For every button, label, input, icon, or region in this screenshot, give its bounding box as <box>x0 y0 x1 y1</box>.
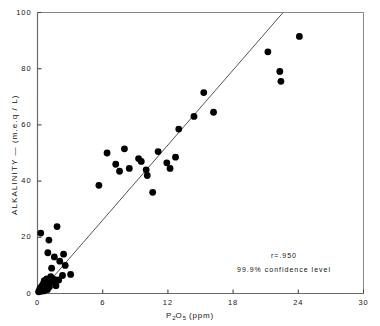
data-point <box>95 182 102 189</box>
data-point <box>191 113 198 120</box>
data-point <box>155 148 162 155</box>
data-point <box>143 166 150 173</box>
y-axis-title: ALKALINITY — (m.e.q / L) <box>10 94 19 215</box>
data-point <box>296 33 303 40</box>
data-point <box>104 150 111 157</box>
data-point <box>276 68 283 75</box>
x-tick-label: 30 <box>350 298 378 307</box>
x-tick-label: 0 <box>24 298 52 307</box>
data-point <box>62 262 69 269</box>
x-axis-title: P2O5 (ppm) <box>0 311 380 321</box>
data-point <box>54 223 61 230</box>
x-tick-label: 24 <box>284 298 312 307</box>
data-point <box>172 154 179 161</box>
data-point <box>48 265 55 272</box>
data-point <box>44 249 51 256</box>
y-tick-label: 60 <box>2 120 32 129</box>
data-point <box>67 271 74 278</box>
data-point <box>210 109 217 116</box>
confidence-annotation: 99.9% confidence level <box>204 266 364 273</box>
x-axis-title-mid: O <box>176 311 183 320</box>
data-point <box>37 230 44 237</box>
y-tick-label: 0 <box>2 289 32 298</box>
y-tick-label: 20 <box>2 232 32 241</box>
data-point <box>112 161 119 168</box>
data-point <box>46 237 53 244</box>
plot-canvas <box>0 0 380 326</box>
y-tick-label: 80 <box>2 64 32 73</box>
regression-line <box>41 13 283 291</box>
x-tick-label: 12 <box>154 298 182 307</box>
correlation-annotation: r=.950 <box>214 252 354 259</box>
data-point <box>144 172 151 179</box>
data-point <box>59 272 66 279</box>
data-point <box>149 189 156 196</box>
x-tick-label: 18 <box>219 298 247 307</box>
data-point <box>278 78 285 85</box>
data-point <box>116 168 123 175</box>
data-point <box>138 158 145 165</box>
data-point <box>121 145 128 152</box>
data-point <box>51 254 58 261</box>
data-point <box>126 165 133 172</box>
scatter-plot-figure: ALKALINITY — (m.e.q / L) P2O5 (ppm) r=.9… <box>0 0 380 326</box>
data-point <box>60 251 67 258</box>
y-tick-label: 40 <box>2 176 32 185</box>
data-point <box>56 258 63 265</box>
x-axis-title-post: (ppm) <box>186 311 214 320</box>
data-point <box>167 165 174 172</box>
y-tick-label: 100 <box>2 8 32 17</box>
data-point <box>175 126 182 133</box>
data-point <box>200 89 207 96</box>
x-tick-label: 6 <box>89 298 117 307</box>
data-point <box>264 48 271 55</box>
